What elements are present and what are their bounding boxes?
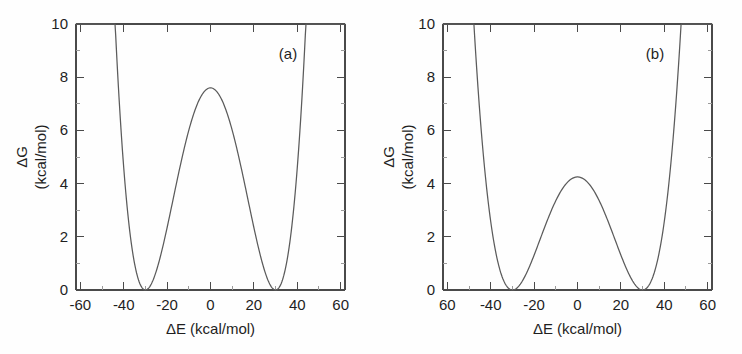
panel-b-x-axis-label: ΔE (kcal/mol) <box>533 320 622 337</box>
panel-b-xtick-2: -20 <box>523 296 545 313</box>
panel-b-xtick-4: 20 <box>613 296 630 313</box>
panel-a-ytick-5: 10 <box>51 15 68 32</box>
panel-b-xtick-0: 60 <box>439 296 456 313</box>
panel-a-ytick-3: 6 <box>60 121 68 138</box>
panel-a-xtick-6: 60 <box>332 296 349 313</box>
panel-b-xtick-1: -40 <box>480 296 502 313</box>
figure-container: -60 -40 -20 0 20 40 60 0 2 4 6 8 10 ΔE (… <box>0 0 742 354</box>
panel-a-ytick-2: 4 <box>60 175 68 192</box>
panel-a-ytick-0: 0 <box>60 281 68 298</box>
panel-a-x-axis-label: ΔE (kcal/mol) <box>166 320 255 337</box>
panel-a-background <box>0 0 371 354</box>
panel-b-xtick-3: 0 <box>573 296 581 313</box>
panel-b: 60 -40 -20 0 20 40 60 0 2 4 6 8 10 ΔE (k… <box>371 0 742 354</box>
panel-a-ytick-1: 2 <box>60 228 68 245</box>
panel-b-xtick-6: 60 <box>699 296 716 313</box>
panel-b-ytick-0: 0 <box>427 281 435 298</box>
panel-a-y-axis-label-line1: ΔG <box>13 146 30 168</box>
panel-b-ytick-1: 2 <box>427 228 435 245</box>
panel-a-xtick-2: -20 <box>156 296 178 313</box>
panel-b-plot: 60 -40 -20 0 20 40 60 0 2 4 6 8 10 ΔE (k… <box>371 0 742 354</box>
panel-a: -60 -40 -20 0 20 40 60 0 2 4 6 8 10 ΔE (… <box>0 0 371 354</box>
panel-b-y-axis-label-line1: ΔG <box>380 146 397 168</box>
panel-b-ytick-3: 6 <box>427 121 435 138</box>
panel-a-y-axis-label-line2: (kcal/mol) <box>32 124 49 189</box>
panel-a-xtick-4: 20 <box>246 296 263 313</box>
panel-a-ytick-4: 8 <box>60 68 68 85</box>
panel-b-ytick-2: 4 <box>427 175 435 192</box>
panel-a-xtick-5: 40 <box>289 296 306 313</box>
panel-a-xtick-1: -40 <box>113 296 135 313</box>
panel-b-tag: (b) <box>646 45 664 62</box>
panel-a-xtick-3: 0 <box>206 296 214 313</box>
panel-a-xtick-0: -60 <box>69 296 91 313</box>
panel-b-xtick-5: 40 <box>656 296 673 313</box>
panel-a-plot: -60 -40 -20 0 20 40 60 0 2 4 6 8 10 ΔE (… <box>0 0 371 354</box>
panel-b-y-axis-label-line2: (kcal/mol) <box>399 124 416 189</box>
panel-b-ytick-5: 10 <box>418 15 435 32</box>
panel-b-ytick-4: 8 <box>427 68 435 85</box>
panel-a-tag: (a) <box>279 45 297 62</box>
